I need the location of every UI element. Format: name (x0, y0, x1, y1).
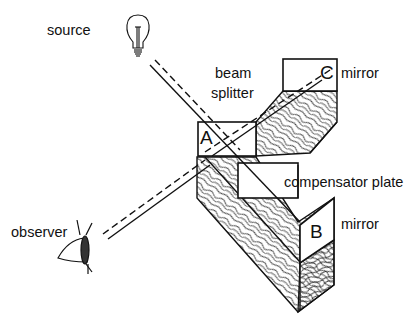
letter-c: C (320, 63, 334, 82)
beam-splitter-label-line2: splitter (211, 86, 254, 101)
mirror-c-label: mirror (341, 66, 379, 81)
source-label: source (47, 23, 91, 38)
interferometer-diagram (0, 0, 417, 319)
beam-splitter-label-line1: beam (215, 66, 251, 81)
light-bulb-icon (127, 15, 149, 56)
letter-b: B (310, 222, 323, 241)
mirror-b-label: mirror (341, 217, 379, 232)
upper-arm-block (256, 91, 337, 156)
compensator-plate-label: compensator plate (284, 175, 403, 190)
letter-a: A (200, 128, 213, 147)
observer-label: observer (11, 225, 67, 240)
